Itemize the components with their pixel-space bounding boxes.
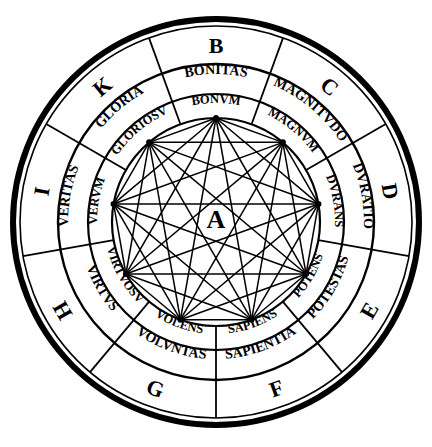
figure-canvas: BBONITASBONVMCMAGNITVDOMAGNVMDDVRATIODVR…	[0, 0, 432, 447]
outer-letter-I: I	[29, 185, 55, 198]
adjective-label-B: BONVM	[190, 92, 241, 108]
vertex-I	[111, 201, 117, 207]
divider-E	[318, 240, 409, 256]
outer-letter-E: E	[355, 298, 384, 323]
chord-BC	[216, 118, 283, 142]
adjective-label-I-text: VERVM	[86, 175, 108, 225]
chord-DG	[180, 204, 318, 320]
adjective-label-I: VERVM	[86, 175, 108, 225]
dignity-label-D: DVRATIO	[350, 161, 376, 229]
outer-letter-C: C	[316, 72, 344, 101]
chord-BK	[149, 118, 216, 142]
dignity-label-D-text: DVRATIO	[350, 161, 376, 229]
dignity-label-I: VERITAS	[56, 162, 82, 226]
center-letter-a: A	[207, 205, 226, 234]
outer-letter-B: B	[209, 33, 224, 58]
adjective-label-D: DVRANS	[323, 172, 346, 227]
vertex-B	[213, 115, 219, 121]
outer-letter-G: G	[143, 374, 168, 403]
divider-I	[23, 240, 114, 256]
outer-letter-K: K	[88, 71, 117, 101]
vertex-D	[315, 201, 321, 207]
vertex-C	[280, 139, 286, 145]
outer-letter-D: D	[377, 181, 404, 201]
llull-figura-a-diagram: BBONITASBONVMCMAGNITVDOMAGNVMDDVRATIODVR…	[0, 0, 432, 447]
dignity-label-I-text: VERITAS	[56, 162, 82, 226]
adjective-label-D-text: DVRANS	[323, 172, 346, 227]
vertex-K	[146, 139, 152, 145]
adjective-label-B-text: BONVM	[190, 92, 241, 108]
outer-letter-H: H	[48, 297, 78, 324]
outer-letter-F: F	[266, 374, 287, 402]
